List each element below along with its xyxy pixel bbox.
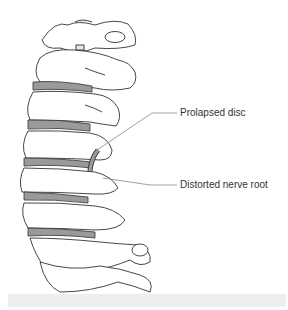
vertebra-c6 (23, 203, 125, 230)
vertebra-t1 (40, 262, 151, 292)
vertebra-c1 (42, 20, 136, 52)
label-distorted-nerve-root: Distorted nerve root (180, 179, 268, 190)
footer-bar (8, 294, 286, 307)
label-prolapsed-disc: Prolapsed disc (180, 107, 246, 118)
vertebra-c4 (23, 131, 112, 160)
spine-illustration (0, 0, 288, 310)
vertebra-c5 (20, 168, 118, 194)
disc-3 (24, 158, 92, 168)
disc-4 (24, 192, 88, 203)
